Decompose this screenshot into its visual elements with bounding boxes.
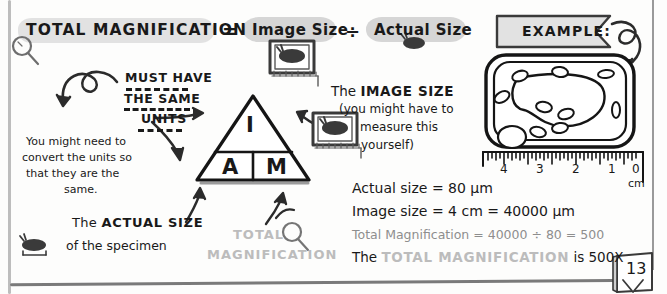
example-curly-arrow — [612, 22, 640, 70]
actual-size-note-prefix: The — [72, 215, 102, 230]
image-size-note-line3: measure this — [360, 121, 438, 135]
actual-size-note-line2: of the specimen — [66, 239, 167, 253]
triangle-letter-magnification: M — [266, 155, 288, 179]
image-size-note-line4: yourself) — [361, 139, 414, 153]
magnifying-glass-icon-lower — [283, 223, 308, 250]
arrow-image-size-to-triangle — [297, 111, 333, 133]
calc-actual-size: Actual size = 80 µm — [352, 180, 493, 196]
image-size-cell-icon — [270, 41, 318, 86]
triangle-letter-image: I — [246, 113, 255, 137]
units-underline-3 — [138, 129, 182, 132]
conclusion-suffix: is 500X — [569, 249, 623, 265]
actual-size-term: Actual Size — [374, 22, 472, 39]
ruler-unit-label: cm — [628, 178, 645, 191]
arrow-units-to-left — [152, 122, 183, 160]
curve-to-lower-magnifier — [276, 209, 294, 218]
divide-sign: ÷ — [345, 22, 361, 43]
calc-conclusion: The TOTAL MAGNIFICATION is 500X — [352, 250, 624, 266]
bottom-rule — [10, 279, 650, 286]
ruler-tick-0: 0 — [632, 163, 640, 177]
calc-total-magnification: Total Magnification = 40000 ÷ 80 = 500 — [352, 228, 604, 242]
conclusion-prefix: The — [352, 249, 381, 265]
plant-cell-diagram — [486, 55, 634, 148]
equals-sign: = — [222, 21, 239, 43]
arrow-total-mag-to-triangle — [266, 193, 286, 224]
convert-note-line2: convert the units so — [22, 152, 132, 165]
units-note-line2: THE SAME — [124, 92, 200, 106]
image-size-note-line1: The IMAGE SIZE — [331, 84, 454, 100]
convert-note-line3: that they are the — [26, 168, 119, 181]
page-title: TOTAL MAGNIFICATION — [26, 22, 247, 40]
image-size-note-line2: (you might have to — [339, 103, 454, 117]
page-number: 13 — [626, 260, 646, 278]
triangle-side-cell-icon — [313, 113, 361, 158]
image-size-note-emphasis: IMAGE SIZE — [360, 83, 454, 99]
formula-triangle — [197, 96, 309, 180]
triangle-letter-actual: A — [222, 155, 239, 179]
total-mag-faint-line1: TOTAL — [233, 228, 284, 243]
actual-size-note-line1: The ACTUAL SIZE — [72, 216, 203, 231]
ruler-tick-4: 4 — [500, 163, 508, 177]
image-size-term: Image Size — [252, 22, 348, 39]
ruler-tick-1: 1 — [608, 163, 616, 177]
convert-note-line4: same. — [64, 184, 97, 197]
right-margin-rule — [652, 0, 654, 270]
specimen-cell-icon — [20, 234, 46, 255]
conclusion-emphasis: TOTAL MAGNIFICATION — [381, 249, 569, 265]
calc-image-size: Image size = 4 cm = 40000 µm — [352, 203, 575, 219]
image-size-note-prefix: The — [331, 83, 360, 99]
actual-size-note-emphasis: ACTUAL SIZE — [102, 215, 204, 230]
example-banner-label: EXAMPLE: — [522, 23, 611, 39]
total-mag-faint-line2: MAGNIFICATION — [207, 248, 337, 263]
ruler-tick-2: 2 — [572, 163, 580, 177]
curly-arrow-left — [57, 72, 117, 106]
units-note-line3: UNITS — [141, 112, 187, 126]
left-margin-rule — [8, 0, 11, 294]
convert-note-line1: You might need to — [26, 136, 126, 149]
units-note-line1: MUST HAVE — [125, 71, 212, 85]
worksheet-page: TOTAL MAGNIFICATION = Image Size ÷ Actua… — [0, 0, 667, 294]
ruler-tick-3: 3 — [536, 163, 544, 177]
